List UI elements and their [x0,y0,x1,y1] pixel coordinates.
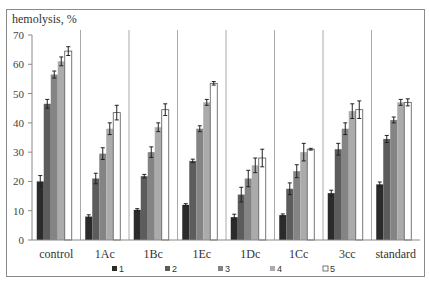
bar [99,154,106,240]
x-category-label: 1Cc [289,247,308,261]
legend-label: 2 [172,264,177,274]
bar [286,189,293,240]
legend-swatch [323,266,328,271]
bar [397,102,404,240]
bar [356,110,363,240]
bar [155,127,162,240]
legend-label: 4 [277,264,282,274]
legend-swatch [112,266,117,271]
y-tick-label: 60 [13,58,25,70]
bar [85,217,92,240]
x-category-label: 3cc [339,247,356,261]
y-tick-label: 10 [13,205,25,217]
bar [349,111,356,240]
bar [92,179,99,241]
bar [342,129,349,240]
legend: 12345 [112,264,335,274]
bar [293,171,300,240]
bar [141,176,148,240]
bar [376,184,383,240]
y-tick-label: 40 [13,117,25,129]
legend-label: 3 [225,264,230,274]
x-category-label: 1Ac [95,247,115,261]
bar [148,152,155,240]
x-category-label: control [39,247,74,261]
y-tick-label: 20 [13,175,25,187]
x-category-label: 1Ec [192,247,211,261]
bar [44,104,51,240]
bar [113,113,120,240]
y-tick-label: 50 [13,88,25,100]
legend-label: 5 [330,264,335,274]
bar [189,161,196,240]
bar [245,179,252,241]
legend-swatch [270,266,275,271]
y-axis: 010203040506070 [13,29,32,246]
bar [196,129,203,240]
x-category-label: 1Bc [144,247,163,261]
bar [252,165,259,240]
bar [335,149,342,240]
bar [390,120,397,240]
bar [383,139,390,240]
x-category-label: 1Dc [240,247,260,261]
bar [300,152,307,240]
legend-label: 1 [119,264,124,274]
bar [106,129,113,240]
bar [404,102,411,240]
x-axis: control1Ac1Bc1Ec1Dc1Cc3ccstandard [32,240,420,261]
bar-chart: 010203040506070 control1Ac1Bc1Ec1Dc1Cc3c… [0,0,429,283]
bar [259,158,266,240]
bar [51,75,58,240]
bar [162,110,169,240]
bar [58,61,65,240]
bars [37,47,412,240]
x-category-label: standard [375,247,416,261]
y-tick-label: 30 [13,146,25,158]
bar [210,83,217,240]
bar [37,181,44,240]
bar [65,51,72,240]
bar [203,102,210,240]
legend-swatch [165,266,170,271]
bar [134,210,141,240]
bar [328,193,335,240]
legend-swatch [218,266,223,271]
bar [307,149,314,240]
bar [279,215,286,240]
y-tick-label: 70 [13,29,25,41]
y-tick-label: 0 [19,234,25,246]
bar [182,205,189,240]
